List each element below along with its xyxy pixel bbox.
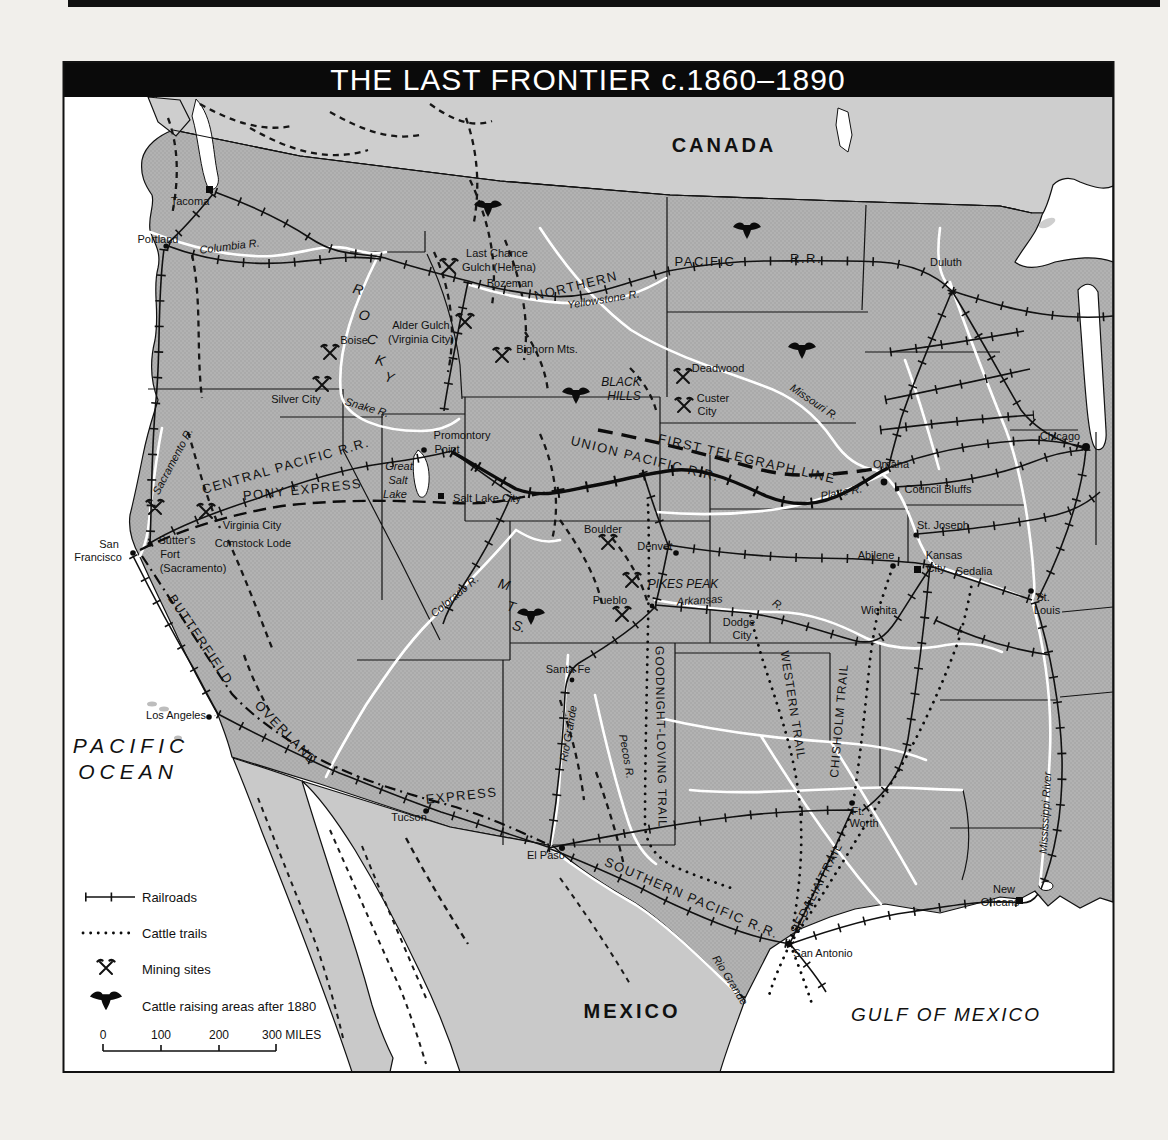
label-sutters-fort-1: Sutter's — [159, 534, 196, 546]
label-custer-city-1: Custer — [697, 392, 730, 404]
label-new-orleans-2: Orleans — [981, 896, 1020, 908]
label-santa-fe: Santa Fe — [546, 663, 591, 675]
label-council-bluffs: Council Bluffs — [904, 483, 972, 495]
label-kansas-city-2: City — [927, 562, 946, 574]
label-great-salt-1: Great — [385, 460, 413, 472]
label-black-hills-2: HILLS — [607, 389, 640, 403]
label-duluth: Duluth — [930, 256, 962, 268]
label-pikes-peak: PIKES PEAK — [648, 577, 720, 591]
label-dodge-city-2: City — [733, 629, 752, 641]
label-st-joseph: St. Joseph — [917, 519, 969, 531]
label-promontory-2: Point — [434, 443, 459, 455]
label-last-chance-2: Gulch (Helena) — [462, 261, 536, 273]
label-new-orleans-1: New — [993, 883, 1015, 895]
label-sedalia: Sedalia — [956, 565, 994, 577]
label-pueblo: Pueblo — [593, 594, 627, 606]
label-wichita: Wichita — [861, 604, 898, 616]
label-el-paso: El Paso — [527, 849, 565, 861]
label-st-louis-1: St. — [1036, 591, 1049, 603]
tacoma-marker — [206, 186, 213, 193]
scale-200: 200 — [209, 1028, 229, 1042]
label-kansas-city-1: Kansas — [926, 549, 963, 561]
label-tacoma: Tacoma — [171, 195, 210, 207]
label-ft-worth-1: Ft. — [852, 805, 865, 817]
label-rr: R.R. — [790, 251, 822, 266]
label-denver: Denver — [637, 540, 673, 552]
map-content: CANADA MEXICO PACIFIC OCEAN GULF OF MEXI… — [64, 62, 1113, 1072]
label-mexico: MEXICO — [584, 1000, 681, 1022]
label-omaha: Omaha — [873, 458, 910, 470]
label-alder-gulch-1: Alder Gulch — [392, 319, 449, 331]
label-dodge-city-1: Dodge — [723, 616, 755, 628]
label-boulder: Boulder — [584, 523, 622, 535]
label-boise: Boise — [340, 334, 368, 346]
legend-mining-label: Mining sites — [142, 962, 211, 977]
label-pacific-rr: PACIFIC — [675, 254, 736, 269]
map-title: THE LAST FRONTIER c.1860–1890 — [330, 63, 845, 96]
channel-island — [147, 702, 157, 707]
label-salt-lake-city: Salt Lake City — [453, 492, 521, 504]
label-silver-city: Silver City — [271, 393, 321, 405]
label-black-hills-1: BLACK — [601, 375, 641, 389]
label-great-salt-2: Salt — [389, 474, 409, 486]
kansas-city-marker — [914, 566, 921, 573]
label-last-chance-1: Last Chance — [466, 247, 528, 259]
label-alder-gulch-2: (Virginia City) — [388, 333, 454, 345]
map-svg: CANADA MEXICO PACIFIC OCEAN GULF OF MEXI… — [0, 0, 1168, 1140]
label-canada: CANADA — [672, 134, 777, 156]
top-rule — [68, 0, 1160, 7]
label-virginia-city: Virginia City — [223, 519, 282, 531]
label-st-louis-2: Louis — [1034, 604, 1061, 616]
label-great-salt-3: Lake — [383, 488, 407, 500]
label-promontory-1: Promontory — [434, 429, 491, 441]
label-bighorn-mts: Bighorn Mts. — [516, 343, 578, 355]
label-sutters-fort-3: (Sacramento) — [160, 562, 227, 574]
label-los-angeles: Los Angeles — [146, 709, 206, 721]
legend-railroads-label: Railroads — [142, 890, 197, 905]
label-tucson: Tucson — [391, 811, 427, 823]
label-comstock-lode: Comstock Lode — [215, 537, 291, 549]
legend-cattle-trails-label: Cattle trails — [142, 926, 208, 941]
legend-cattle-areas-label: Cattle raising areas after 1880 — [142, 999, 316, 1014]
label-pacific-ocean-2: OCEAN — [78, 760, 178, 783]
scale-300-miles: 300 MILES — [262, 1028, 321, 1042]
label-gulf-of-mexico: GULF OF MEXICO — [851, 1004, 1041, 1025]
label-sutters-fort-2: Fort — [160, 548, 180, 560]
label-san-francisco-2: Francisco — [74, 551, 122, 563]
page: CANADA MEXICO PACIFIC OCEAN GULF OF MEXI… — [0, 0, 1168, 1140]
label-custer-city-2: City — [698, 405, 717, 417]
label-ft-worth-2: Worth — [849, 817, 878, 829]
scale-100: 100 — [151, 1028, 171, 1042]
label-san-antonio: San Antonio — [793, 947, 852, 959]
label-abilene: Abilene — [858, 549, 895, 561]
label-san-francisco-1: San — [99, 538, 119, 550]
label-portland: Portland — [138, 233, 179, 245]
scale-0: 0 — [100, 1028, 107, 1042]
label-pacific-ocean-1: PACIFIC — [73, 734, 189, 757]
label-bozeman: Bozeman — [487, 277, 533, 289]
label-chicago: Chicago — [1040, 430, 1080, 442]
salt-lake-city-marker — [438, 493, 444, 499]
label-deadwood: Deadwood — [692, 362, 745, 374]
